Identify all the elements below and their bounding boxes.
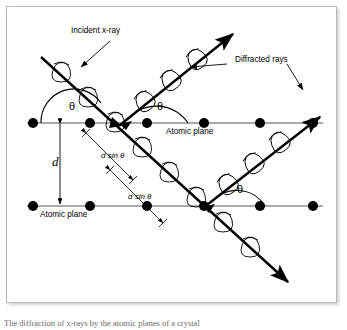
path-difference-lower-label: d sin θ <box>128 193 151 201</box>
theta-label-1: θ <box>69 101 75 112</box>
atomic-plane-bottom-label: Atomic plane <box>40 211 87 219</box>
xray-diffraction-figure: Incident x-ray Diffracted rays Atomic pl… <box>0 0 347 330</box>
theta-label-2: θ <box>157 101 163 112</box>
diffracted-ray-lower-line <box>203 117 320 213</box>
atomic-plane-top-label: Atomic plane <box>166 128 213 136</box>
leader-diffracted-right <box>287 64 303 90</box>
diffracted-ray-upper-line <box>120 34 233 130</box>
incident-ray-label: Incident x-ray <box>71 27 120 35</box>
path-difference-upper-label: d sin θ <box>101 152 124 160</box>
leader-incident-ray <box>81 41 110 67</box>
interplanar-spacing-label: d <box>52 155 59 168</box>
figure-caption: The diffraction of x-rays by the atomic … <box>4 318 347 330</box>
diffracted-rays-label: Diffracted rays <box>235 56 288 64</box>
theta-label-3: θ <box>237 184 243 195</box>
